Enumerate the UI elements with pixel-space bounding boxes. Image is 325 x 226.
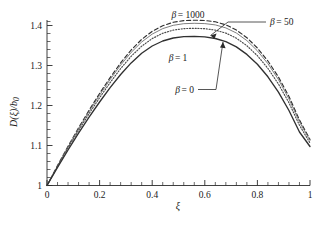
x-tick-label-1: 1 bbox=[308, 190, 313, 200]
arrowhead-beta-0 bbox=[220, 42, 226, 48]
annotation-beta-50-symbol: β bbox=[269, 17, 275, 27]
x-axis-label: ξ bbox=[176, 200, 181, 212]
axes-frame bbox=[47, 20, 310, 186]
x-tick-label-0-8: 0.8 bbox=[251, 190, 263, 200]
annotation-beta-1-symbol: β bbox=[168, 53, 174, 63]
curve-beta-50 bbox=[47, 23, 310, 185]
x-axis-minor-ticks bbox=[58, 182, 300, 186]
x-axis-major-ticks bbox=[47, 180, 310, 186]
annotation-beta-50-value: = 50 bbox=[276, 17, 293, 27]
x-axis-tick-labels: 0 0.2 0.4 0.6 0.8 1 bbox=[45, 190, 313, 200]
y-tick-label-1-2: 1.2 bbox=[30, 101, 42, 111]
y-axis-tick-labels: 1 1.1 1.2 1.3 1.4 bbox=[30, 21, 42, 191]
y-tick-label-1-3: 1.3 bbox=[30, 61, 42, 71]
y-axis-label-prefix: D( bbox=[8, 116, 20, 128]
y-tick-label-1-1: 1.1 bbox=[30, 141, 42, 151]
annotation-beta-50: β= 50 bbox=[269, 17, 294, 27]
x-tick-label-0: 0 bbox=[45, 190, 50, 200]
annotation-beta-1000-symbol: β bbox=[171, 10, 177, 20]
x-tick-label-0-2: 0.2 bbox=[94, 190, 106, 200]
line-chart-svg: 1 1.1 1.2 1.3 1.4 0 0.2 0.4 0.6 0.8 1 ξ … bbox=[0, 0, 325, 226]
annotation-beta-0-value: = 0 bbox=[182, 85, 195, 95]
annotation-beta-1000: β= 1000 bbox=[171, 10, 205, 20]
chart-figure: 1 1.1 1.2 1.3 1.4 0 0.2 0.4 0.6 0.8 1 ξ … bbox=[0, 0, 325, 226]
y-axis-minor-ticks bbox=[47, 22, 51, 178]
x-tick-label-0-4: 0.4 bbox=[146, 190, 158, 200]
y-axis-label: D(ξ)/b0 bbox=[8, 97, 21, 128]
curve-beta-1 bbox=[47, 28, 310, 185]
y-tick-label-1: 1 bbox=[37, 181, 42, 191]
svg-text:D(ξ)/b0: D(ξ)/b0 bbox=[8, 97, 21, 128]
annotation-beta-0: β= 0 bbox=[174, 85, 194, 95]
annotation-beta-1-value: = 1 bbox=[175, 53, 188, 63]
y-axis-label-sub: 0 bbox=[12, 97, 21, 101]
y-axis-label-mid: )/b bbox=[8, 101, 20, 113]
curve-beta-1000 bbox=[47, 20, 310, 185]
x-tick-label-0-6: 0.6 bbox=[199, 190, 211, 200]
annotation-beta-1000-value: = 1000 bbox=[178, 10, 205, 20]
y-tick-label-1-4: 1.4 bbox=[30, 21, 42, 31]
leader-beta-50 bbox=[211, 22, 267, 39]
annotation-beta-0-symbol: β bbox=[174, 85, 180, 95]
leader-beta-0 bbox=[198, 42, 226, 90]
annotation-beta-1: β= 1 bbox=[168, 53, 188, 63]
